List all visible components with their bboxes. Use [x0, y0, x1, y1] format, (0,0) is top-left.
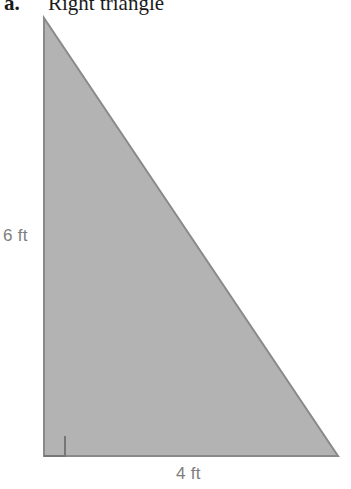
right-triangle-figure [0, 0, 351, 489]
triangle-svg [0, 0, 351, 489]
triangle-shape [44, 18, 338, 456]
figure-page: a. Right triangle 6 ft 4 ft [0, 0, 351, 489]
base-dimension-label: 4 ft [176, 464, 201, 484]
height-dimension-label: 6 ft [3, 226, 28, 246]
